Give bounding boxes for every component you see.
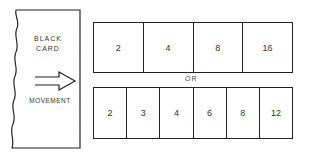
top-cell: 4 [144, 23, 194, 72]
top-cell: 8 [194, 23, 244, 72]
bottom-cell: 12 [260, 88, 292, 138]
bottom-cell: 4 [160, 88, 193, 138]
top-cell: 2 [94, 23, 144, 72]
bottom-row-divisions: 2 3 4 6 8 12 [93, 87, 293, 139]
card-label-black: BLACK [20, 35, 76, 42]
bottom-cell: 3 [127, 88, 160, 138]
top-row-divisions: 2 4 8 16 [93, 22, 293, 73]
right-arrow-icon [33, 70, 77, 92]
bottom-cell: 6 [194, 88, 227, 138]
bottom-cell: 2 [94, 88, 127, 138]
top-cell: 16 [243, 23, 292, 72]
or-separator: OR [185, 75, 198, 82]
movement-label: MOVEMENT [22, 97, 78, 104]
bottom-cell: 8 [227, 88, 260, 138]
card-label-card: CARD [20, 45, 76, 52]
